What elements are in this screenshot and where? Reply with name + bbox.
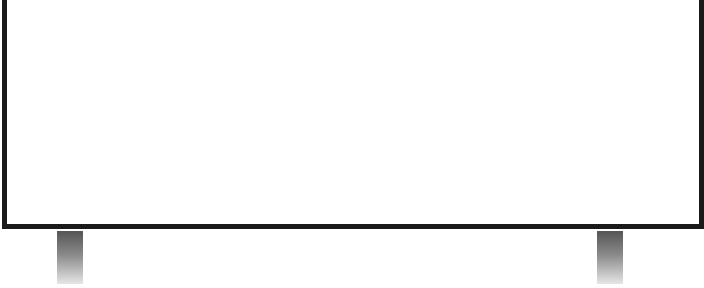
left-leg bbox=[57, 231, 83, 284]
whiteboard-surface bbox=[2, 0, 704, 229]
right-leg bbox=[597, 231, 623, 284]
